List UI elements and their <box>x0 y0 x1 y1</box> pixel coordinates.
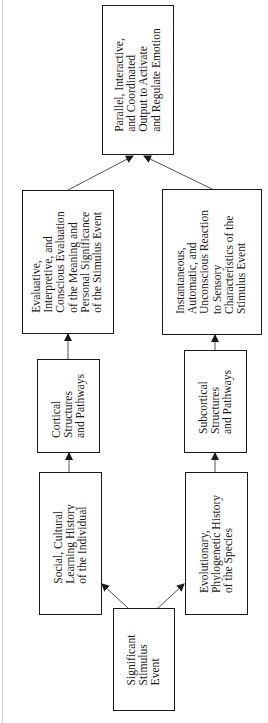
node-social-label: Social, Cultural Learning History of the… <box>52 504 89 584</box>
node-subcortical: Subcortical Structures and Pathways <box>184 350 247 453</box>
node-subcortical-label: Subcortical Structures and Pathways <box>197 369 234 433</box>
node-evolutionary: Evolutionary, Phylogenetic History of th… <box>185 472 248 615</box>
arrow-evaluative-to-output <box>68 156 133 190</box>
node-evaluative: Evaluative, Interpretive, and Conscious … <box>22 190 114 334</box>
node-output-label: Parallel, Interactive, and Coordinated O… <box>114 28 163 132</box>
arrow-stimulus-to-evolutionary <box>158 584 184 608</box>
node-stimulus: Significant Stimulus Event <box>113 608 175 711</box>
node-evaluative-label: Evaluative, Interpretive, and Conscious … <box>31 211 104 312</box>
node-evolutionary-label: Evolutionary, Phylogenetic History of th… <box>198 494 235 592</box>
node-cortical-label: Cortical Structures and Pathways <box>50 374 87 438</box>
node-social: Social, Cultural Learning History of the… <box>39 472 102 615</box>
arrow-instantaneous-to-output <box>144 156 212 189</box>
node-instantaneous: Instantaneous, Automatic, and Unconsciou… <box>162 189 262 335</box>
node-instantaneous-label: Instantaneous, Automatic, and Unconsciou… <box>175 210 248 314</box>
node-stimulus-label: Significant Stimulus Event <box>126 634 163 685</box>
arrow-stimulus-to-social <box>102 584 128 608</box>
node-cortical: Cortical Structures and Pathways <box>37 359 100 453</box>
node-output: Parallel, Interactive, and Coordinated O… <box>102 5 174 155</box>
